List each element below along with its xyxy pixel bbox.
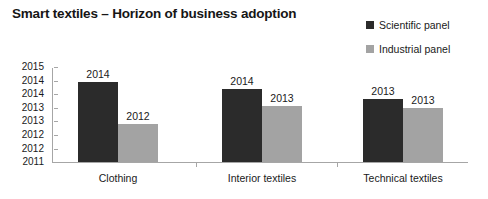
y-axis-tick-label: 2013 [22, 116, 44, 126]
bar-scientific-0[interactable] [78, 82, 118, 162]
bar-industrial-2[interactable] [403, 108, 443, 162]
y-axis-tick-label: 2011 [22, 157, 44, 167]
legend-item-industrial-panel: Industrial panel [366, 40, 486, 58]
legend-label-scientific-panel: Scientific panel [379, 19, 450, 31]
x-axis-line [52, 162, 468, 163]
legend-swatch-icon-scientific-panel [366, 21, 374, 29]
plot-area: 201420122014201320132013 [52, 68, 468, 163]
chart-legend: Scientific panel Industrial panel [366, 16, 486, 64]
y-axis-line [52, 68, 53, 163]
x-axis-group-separator [196, 162, 197, 167]
bar-data-label: 2013 [401, 94, 445, 106]
bar-industrial-0[interactable] [118, 124, 158, 162]
y-axis-tick-label: 2014 [22, 76, 44, 86]
legend-label-industrial-panel: Industrial panel [379, 43, 450, 55]
bar-data-label: 2014 [220, 75, 264, 87]
x-axis-category-label: Technical textiles [353, 172, 453, 184]
y-axis-tick-label: 2012 [22, 144, 44, 154]
x-axis-group-separator [337, 162, 338, 167]
bar-data-label: 2013 [260, 92, 304, 104]
x-axis-category-label: Clothing [68, 172, 168, 184]
x-axis-category-labels: ClothingInterior textilesTechnical texti… [52, 172, 468, 188]
x-axis-category-label: Interior textiles [212, 172, 312, 184]
y-axis-tick-labels: 20152014201420132013201220122011 [10, 62, 50, 168]
bar-data-label: 2013 [361, 85, 405, 97]
bar-industrial-1[interactable] [262, 106, 302, 162]
legend-swatch-icon-industrial-panel [366, 45, 374, 53]
bar-scientific-2[interactable] [363, 99, 403, 162]
y-axis-tick-label: 2012 [22, 130, 44, 140]
chart-title: Smart textiles – Horizon of business ado… [12, 6, 296, 21]
chart-container: Smart textiles – Horizon of business ado… [0, 0, 488, 199]
y-axis-tick-label: 2014 [22, 89, 44, 99]
y-axis-tick-label: 2015 [22, 62, 44, 72]
legend-item-scientific-panel: Scientific panel [366, 16, 486, 34]
y-axis-tick-label: 2013 [22, 103, 44, 113]
bar-data-label: 2014 [76, 68, 120, 80]
bar-scientific-1[interactable] [222, 89, 262, 162]
bar-data-label: 2012 [116, 110, 160, 122]
